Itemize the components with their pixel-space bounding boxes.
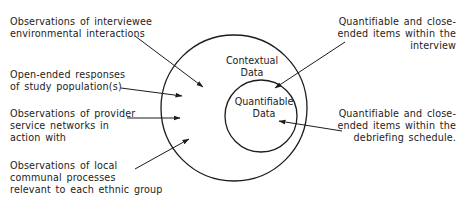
label-line: debriefing schedule. [337,132,456,144]
quantifiable-data-label-line: Data [226,108,302,120]
label-line: Quantifiable and close- [337,108,456,120]
label-line: communal processes [10,172,163,184]
label-line: Observations of local [10,160,163,172]
label-provider-service-networks: Observations of provider service network… [10,108,135,145]
label-line: service networks in [10,120,135,132]
label-debriefing-quantifiable-items: Quantifiable and close- ended items with… [337,108,456,145]
quantifiable-data-label-line: Quantifiable [226,96,302,108]
label-local-communal-processes: Observations of local communal processes… [10,160,163,197]
arrow-open-ended-responses [121,88,182,96]
contextual-data-label: Contextual Data [216,55,288,79]
arrow-debriefing-items [279,121,342,131]
label-line: environmental interactions [10,28,152,40]
label-interviewee-environmental-interactions: Observations of interviewee environmenta… [10,16,152,40]
contextual-data-label-line: Data [216,67,288,79]
arrow-environmental-interactions [135,36,203,87]
contextual-data-label-line: Contextual [216,55,288,67]
label-line: of study population(s) [10,81,125,93]
label-line: Quantifiable and close- [337,16,456,28]
quantifiable-data-label: Quantifiable Data [226,96,302,120]
label-line: Observations of provider [10,108,135,120]
diagram-canvas: Contextual Data Quantifiable Data Observ… [0,0,469,209]
label-line: ended items within the [337,28,456,40]
label-line: interview [337,40,456,52]
label-line: ended items within the [337,120,456,132]
label-line: Observations of interviewee [10,16,152,28]
label-open-ended-responses: Open-ended responses of study population… [10,69,125,93]
label-line: Open-ended responses [10,69,125,81]
label-line: action with [10,132,135,144]
label-line: relevant to each ethnic group [10,184,163,196]
label-interview-quantifiable-items: Quantifiable and close- ended items with… [337,16,456,53]
